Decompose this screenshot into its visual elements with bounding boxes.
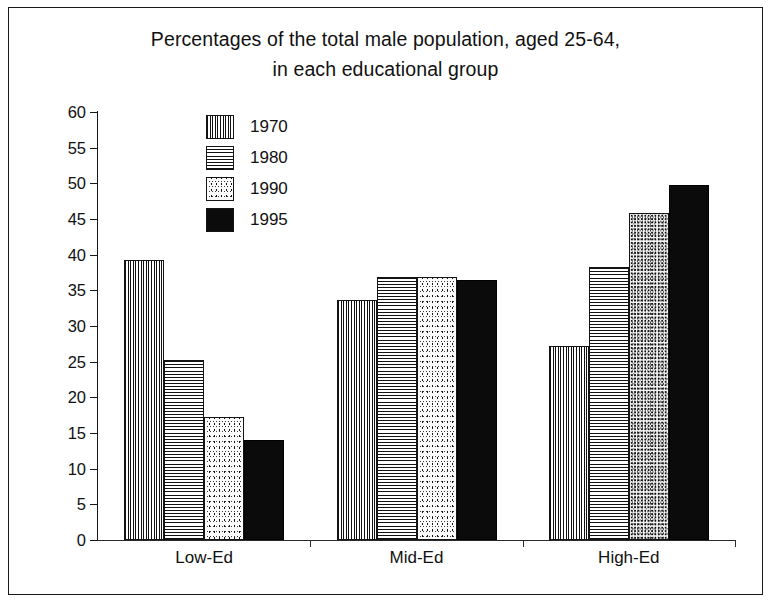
bar-high-ed-1990: [629, 213, 669, 540]
bar-high-ed-1980: [589, 267, 629, 540]
y-axis-label-wrap: 15: [40, 425, 86, 441]
chart-legend: 1970 1980 1990 1995: [206, 112, 346, 236]
y-axis-tick: [90, 326, 97, 327]
y-axis-label-wrap: 50: [40, 175, 86, 191]
legend-swatch-1980-icon: [206, 146, 234, 170]
y-axis-label-wrap: 40: [40, 247, 86, 263]
y-axis-tick: [90, 362, 97, 363]
legend-label-1990: 1990: [250, 178, 288, 199]
legend-item-1990: 1990: [206, 174, 346, 205]
x-axis-category-label: Mid-Ed: [310, 548, 522, 568]
chart-title: Percentages of the total male population…: [9, 24, 762, 84]
y-axis-label-wrap: 10: [40, 461, 86, 477]
y-axis-tick: [90, 255, 97, 256]
y-axis-label: 35: [50, 282, 86, 298]
x-axis-tick: [523, 540, 524, 547]
y-axis-label-wrap: 45: [40, 211, 86, 227]
x-axis-category-label: Low-Ed: [98, 548, 310, 568]
y-axis-tick: [90, 504, 97, 505]
x-axis-tick: [735, 540, 736, 547]
bar-mid-ed-1995: [457, 280, 497, 540]
y-axis-label-wrap: 60: [40, 104, 86, 120]
y-axis-label: 45: [50, 211, 86, 227]
bar-mid-ed-1990: [417, 277, 457, 540]
y-axis-label: 15: [50, 425, 86, 441]
y-axis-label: 30: [50, 318, 86, 334]
y-axis-label: 5: [50, 496, 86, 512]
y-axis-tick: [90, 469, 97, 470]
bar-mid-ed-1970: [337, 300, 377, 540]
y-axis-label-wrap: 35: [40, 282, 86, 298]
chart-title-line-2: in each educational group: [9, 54, 762, 84]
legend-swatch-1970-icon: [206, 115, 234, 139]
legend-swatch-1990-icon: [206, 177, 234, 201]
y-axis-tick: [90, 183, 97, 184]
y-axis-label-wrap: 5: [40, 496, 86, 512]
y-axis-label: 60: [50, 104, 86, 120]
legend-label-1995: 1995: [250, 209, 288, 230]
y-axis-tick: [90, 433, 97, 434]
y-axis-label: 50: [50, 175, 86, 191]
legend-item-1995: 1995: [206, 205, 346, 236]
y-axis-tick: [90, 112, 97, 113]
bar-low-ed-1990: [204, 417, 244, 540]
legend-label-1980: 1980: [250, 147, 288, 168]
legend-item-1970: 1970: [206, 112, 346, 143]
y-axis-label: 20: [50, 389, 86, 405]
y-axis-label-wrap: 30: [40, 318, 86, 334]
y-axis-tick: [90, 397, 97, 398]
x-axis-tick: [310, 540, 311, 547]
y-axis-label: 40: [50, 247, 86, 263]
y-axis-tick: [90, 148, 97, 149]
y-axis-tick: [90, 540, 97, 541]
legend-swatch-1995-icon: [206, 208, 234, 232]
legend-label-1970: 1970: [250, 116, 288, 137]
y-axis-tick: [90, 219, 97, 220]
y-axis-label: 55: [50, 140, 86, 156]
y-axis-label-wrap: 0: [40, 532, 86, 548]
y-axis-tick: [90, 290, 97, 291]
x-axis-category-label: High-Ed: [523, 548, 735, 568]
chart-title-line-1: Percentages of the total male population…: [9, 24, 762, 54]
y-axis-line: [97, 111, 98, 541]
y-axis-label-wrap: 20: [40, 389, 86, 405]
y-axis-label-wrap: 25: [40, 354, 86, 370]
bar-high-ed-1970: [549, 346, 589, 540]
y-axis-label: 10: [50, 461, 86, 477]
y-axis-label: 25: [50, 354, 86, 370]
bar-high-ed-1995: [669, 185, 709, 540]
legend-item-1980: 1980: [206, 143, 346, 174]
y-axis-label: 0: [50, 532, 86, 548]
bar-mid-ed-1980: [377, 277, 417, 540]
y-axis-label-wrap: 55: [40, 140, 86, 156]
bar-low-ed-1970: [124, 260, 164, 540]
bar-low-ed-1995: [244, 440, 284, 540]
bar-low-ed-1980: [164, 360, 204, 540]
x-axis-baseline: [97, 540, 735, 541]
